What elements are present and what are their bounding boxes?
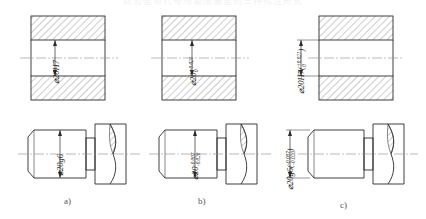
deviation-stack: -0.007-0.020 (286, 151, 297, 164)
figure-b-shaft-drawing (153, 116, 275, 194)
figure-c-hole-dimension-text: ⌀20H7(+0.0210) (297, 49, 308, 94)
dimension-label: ⌀20H7 (51, 60, 61, 84)
hatch-upper (319, 16, 393, 40)
break-hatch (240, 124, 246, 154)
lower-deviation: 0 (194, 57, 199, 72)
dimension-label: ⌀20H7 (296, 70, 306, 94)
figure-a-shaft-drawing (22, 116, 144, 194)
figure-a-caption: a) (64, 196, 71, 206)
open-paren: ( (285, 165, 295, 168)
figure-a-hole-dimension-text: ⌀20H7 (52, 60, 61, 84)
figure-c-hole-view: ⌀20H7(+0.0210) (292, 14, 402, 102)
hatch-upper (31, 16, 105, 40)
figure-b-hole-view: ⌀20+0.0210 (159, 14, 255, 102)
deviation-stack: +0.0210 (189, 57, 200, 72)
break-hatch (109, 124, 115, 154)
figure-b-hole-drawing (159, 14, 255, 102)
arrowhead-top (58, 130, 62, 136)
arrowhead-top (190, 40, 194, 46)
dimension-label: ⌀20g6 (285, 168, 295, 190)
drawing-sheet: 数公差带代号与极限偏差的三种标注形式 (0, 0, 426, 219)
figure-a-shaft-view: ⌀20g6 (22, 116, 144, 194)
figure-b-hole-dimension-text: ⌀20+0.0210 (189, 57, 200, 86)
hatch-upper (162, 16, 236, 40)
arrowhead-top (288, 130, 292, 136)
open-paren: ( (296, 67, 306, 70)
figure-a-shaft-dimension-text: ⌀20g6 (56, 154, 65, 176)
dimension-label: ⌀20 (190, 167, 200, 181)
figure-a-hole-view: ⌀20H7 (28, 14, 124, 102)
lower-deviation: 0 (302, 52, 307, 67)
lower-deviation: -0.020 (291, 151, 296, 164)
hatch-lower (31, 76, 105, 100)
hatch-lower (319, 76, 393, 100)
figure-b-shaft-view: ⌀20-0.007-0.020 (153, 116, 275, 194)
arrowhead-top (193, 130, 197, 136)
figure-c-shaft-view: ⌀20g6(-0.007-0.020) (278, 114, 418, 194)
deviation-stack: +0.0210 (297, 52, 308, 67)
top-cropped-caption: 数公差带代号与极限偏差的三种标注形式 (0, 0, 426, 9)
dimension-label: ⌀20g6 (55, 154, 65, 176)
arrowhead-top (299, 40, 303, 46)
figure-b-caption: b) (198, 196, 206, 206)
dimension-label: ⌀20 (188, 73, 198, 87)
figure-c-shaft-drawing (278, 114, 418, 194)
deviation-stack: -0.007-0.020 (191, 153, 202, 166)
top-cropped-caption-text: 数公差带代号与极限偏差的三种标注形式 (0, 0, 426, 6)
figure-c-shaft-dimension-text: ⌀20g6(-0.007-0.020) (286, 148, 297, 190)
figure-b-shaft-dimension-text: ⌀20-0.007-0.020 (191, 153, 202, 180)
arrowhead-top (53, 40, 57, 46)
figure-a-hole-drawing (28, 14, 124, 102)
break-hatch (387, 124, 393, 154)
figure-c-hole-drawing (292, 14, 402, 102)
figure-c-caption: c) (340, 200, 347, 210)
lower-deviation: -0.020 (196, 153, 201, 166)
